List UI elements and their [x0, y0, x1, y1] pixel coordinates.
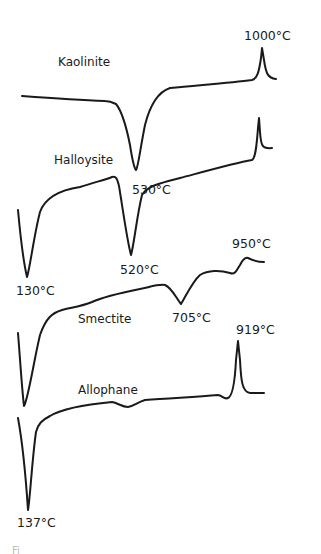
- allophane-919-annotation: 919°C: [236, 324, 275, 337]
- smectite-curve: [18, 258, 264, 406]
- kaolinite-1000-annotation: 1000°C: [244, 30, 291, 43]
- dta-figure: Kaolinite 1000°C 530°C Halloysite 130°C …: [0, 0, 321, 554]
- halloysite-label: Halloysite: [54, 154, 113, 166]
- smectite-label: Smectite: [78, 313, 131, 325]
- smectite-950-annotation: 950°C: [232, 238, 271, 251]
- halloysite-520-annotation: 520°C: [120, 264, 159, 277]
- halloysite-130-annotation: 130°C: [16, 285, 55, 298]
- allophane-label: Allophane: [78, 384, 138, 396]
- allophane-curve: [18, 341, 264, 510]
- kaolinite-530-annotation: 530°C: [132, 184, 171, 197]
- figure-caption-fragment: Fi: [12, 545, 20, 554]
- smectite-705-annotation: 705°C: [172, 312, 211, 325]
- kaolinite-label: Kaolinite: [58, 56, 110, 68]
- dta-curves: [0, 0, 321, 554]
- halloysite-curve: [18, 118, 272, 277]
- allophane-137-annotation: 137°C: [17, 517, 56, 530]
